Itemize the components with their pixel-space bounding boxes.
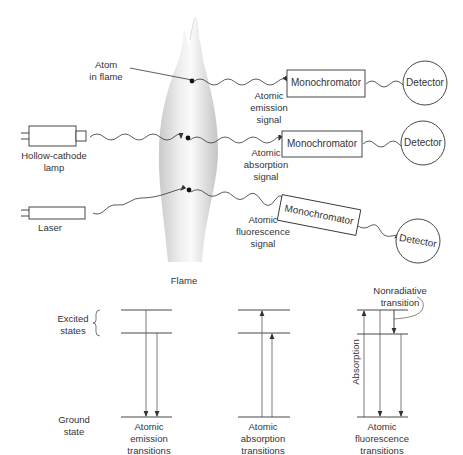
emission-transitions-caption: Atomic emission transitions <box>121 421 177 455</box>
laser-icon <box>21 207 85 219</box>
fluorescence-caption-line2: fluorescence <box>347 433 417 445</box>
hollow-cathode-line1: Hollow-cathode <box>14 150 94 162</box>
flame-label: Flame <box>164 275 204 287</box>
excited-states-brace <box>93 310 100 336</box>
atom-dot-absorption <box>186 136 191 141</box>
monochromator-emission-label: Monochromator <box>287 77 365 89</box>
atom-in-flame-label: Atom in flame <box>78 59 134 83</box>
emission-signal-label: Atomic emission signal <box>241 90 297 126</box>
hollow-cathode-lamp-icon <box>21 126 86 146</box>
detector-emission-label: Detector <box>403 77 447 89</box>
absorption-signal-line2: absorption <box>236 159 296 171</box>
fluorescence-signal-label: Atomic fluorescence signal <box>228 214 298 250</box>
atomic-spectroscopy-diagram: Atom in flame Atomic emission signal Ato… <box>0 0 463 455</box>
fluorescence-transitions-caption: Atomic fluorescence transitions <box>347 421 417 455</box>
absorption-caption-line3: transitions <box>233 445 293 455</box>
excited-states-label: Excited states <box>56 313 90 337</box>
emission-caption-line3: transitions <box>121 445 177 455</box>
atom-label-line2: in flame <box>78 71 134 83</box>
ground-line2: state <box>56 426 92 438</box>
nonradiative-line1: Nonradiative <box>365 285 435 297</box>
monochromator-absorption-label: Monochromator <box>282 138 362 150</box>
laser-label: Laser <box>30 222 70 234</box>
emission-detector-wave <box>366 81 407 87</box>
emission-caption-line2: emission <box>121 433 177 445</box>
fluorescence-detector-wave <box>358 225 397 238</box>
absorption-energy-diagram <box>238 310 290 417</box>
nonradiative-transition-label: Nonradiative transition <box>365 285 435 309</box>
ground-line1: Ground <box>56 414 92 426</box>
ground-state-label: Ground state <box>56 414 92 438</box>
hollow-cathode-line2: lamp <box>14 162 94 174</box>
excited-line2: states <box>56 325 90 337</box>
atom-dot-fluorescence <box>187 188 192 193</box>
absorption-transitions-caption: Atomic absorption transitions <box>233 421 293 455</box>
absorption-detector-wave <box>363 141 403 147</box>
fluorescence-signal-line1: Atomic <box>228 214 298 226</box>
emission-signal-line2: emission <box>241 102 297 114</box>
emission-signal-line1: Atomic <box>241 90 297 102</box>
fluorescence-signal-line2: fluorescence <box>228 226 298 238</box>
absorption-signal-line3: signal <box>236 171 296 183</box>
fluorescence-caption-line1: Atomic <box>347 421 417 433</box>
fluorescence-caption-line3: transitions <box>347 445 417 455</box>
emission-energy-diagram <box>121 310 172 417</box>
hollow-cathode-lamp-label: Hollow-cathode lamp <box>14 150 94 174</box>
fluorescence-signal-line3: signal <box>228 238 298 250</box>
emission-signal-line3: signal <box>241 114 297 126</box>
fluorescence-energy-diagram <box>357 297 423 417</box>
detector-absorption-label: Detector <box>401 137 445 149</box>
nonradiative-line2: transition <box>365 297 435 309</box>
absorption-caption-line1: Atomic <box>233 421 293 433</box>
absorption-signal-label: Atomic absorption signal <box>236 147 296 183</box>
atom-label-line1: Atom <box>78 59 134 71</box>
emission-caption-line1: Atomic <box>121 421 177 433</box>
excited-line1: Excited <box>56 313 90 325</box>
absorption-axis-label: Absorption <box>350 332 362 392</box>
absorption-caption-line2: absorption <box>233 433 293 445</box>
